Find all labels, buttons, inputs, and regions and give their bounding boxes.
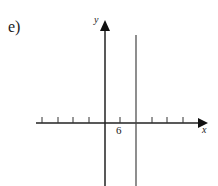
coordinate-plane <box>0 0 218 186</box>
x-axis-arrow-icon <box>198 118 208 128</box>
y-axis-arrow-icon <box>100 20 110 31</box>
x-axis-ticks <box>42 117 183 123</box>
